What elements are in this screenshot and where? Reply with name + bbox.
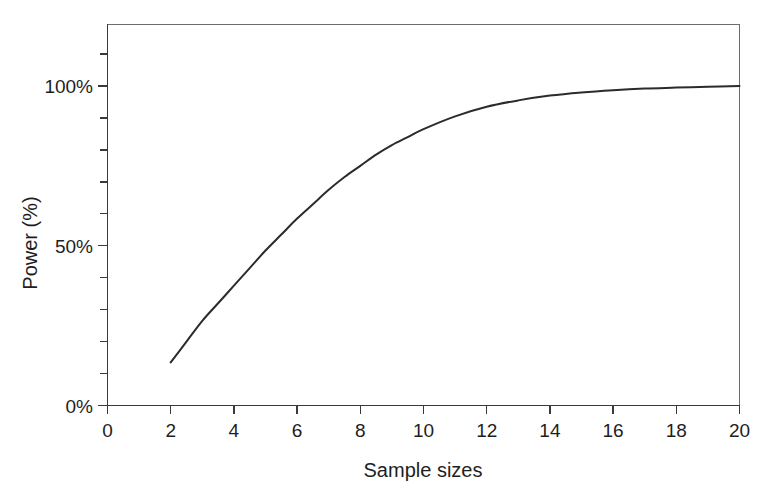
y-tick-label-0: 0% <box>66 396 94 417</box>
chart-background <box>0 0 764 503</box>
x-tick-label-2: 2 <box>165 420 176 441</box>
x-tick-label-18: 18 <box>666 420 687 441</box>
power-vs-sample-size-chart: 100% 50% 0% 0 2 4 6 8 10 12 14 <box>0 0 764 503</box>
y-tick-label-50: 50% <box>55 236 93 257</box>
y-tick-label-100: 100% <box>44 76 93 97</box>
x-tick-label-6: 6 <box>292 420 303 441</box>
x-tick-label-0: 0 <box>102 420 113 441</box>
x-tick-label-16: 16 <box>603 420 624 441</box>
x-tick-label-14: 14 <box>539 420 561 441</box>
x-tick-label-8: 8 <box>355 420 366 441</box>
x-tick-label-12: 12 <box>476 420 497 441</box>
chart-figure: 100% 50% 0% 0 2 4 6 8 10 12 14 <box>0 0 764 503</box>
x-tick-label-10: 10 <box>413 420 434 441</box>
x-tick-label-20: 20 <box>729 420 750 441</box>
x-axis-title: Sample sizes <box>364 459 483 481</box>
x-tick-label-4: 4 <box>229 420 240 441</box>
y-axis-title: Power (%) <box>19 196 41 289</box>
